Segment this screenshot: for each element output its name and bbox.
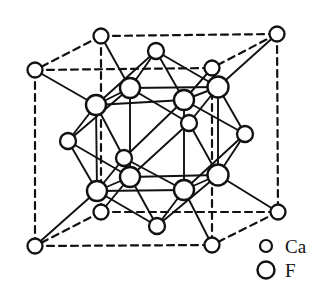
legend: Ca F <box>258 236 307 281</box>
fluorine-atom <box>174 90 194 110</box>
f-cube-edge <box>96 100 184 105</box>
calcium-atom <box>94 29 109 44</box>
crystal-structure-diagram: Ca F <box>0 0 321 302</box>
legend-f-circle-icon <box>258 262 275 279</box>
fluorine-atom <box>86 95 106 115</box>
calcium-atom <box>181 115 197 131</box>
legend-ca-label: Ca <box>285 236 307 257</box>
fluorine-atom <box>87 181 107 201</box>
ca-f-bond <box>218 34 277 87</box>
calcium-atom <box>28 239 43 254</box>
calcium-atom <box>237 126 253 142</box>
calcium-atom <box>270 27 285 42</box>
f-cube-edge <box>97 190 184 191</box>
calcium-atom <box>205 61 220 76</box>
legend-ca-circle-icon <box>260 240 272 252</box>
fluorine-atom <box>208 77 229 98</box>
cube-edge-dashed <box>35 36 101 70</box>
cube-edge-dashed <box>101 34 277 36</box>
ca-f-bond <box>130 123 189 177</box>
fluorine-atom <box>174 180 194 200</box>
f-cube-edge <box>130 175 218 177</box>
cube-edge-dashed <box>277 34 278 212</box>
f-cube-edge <box>130 87 218 88</box>
calcium-atom <box>28 63 43 78</box>
calcium-atom <box>94 205 109 220</box>
crystal-structure-figure: Ca F <box>0 0 321 302</box>
calcium-atom <box>148 43 164 59</box>
fluorine-atom <box>120 167 140 187</box>
calcium-atom <box>205 238 220 253</box>
calcium-atom <box>271 205 286 220</box>
fluorine-atom <box>208 165 229 186</box>
calcium-atom <box>149 218 165 234</box>
calcium-atom <box>60 133 76 149</box>
ca-f-bond <box>124 100 184 158</box>
f-cube-edge <box>96 105 97 191</box>
fluorine-atom <box>120 78 140 98</box>
legend-f-label: F <box>285 260 296 281</box>
calcium-atom <box>116 150 132 166</box>
cube-edge-dashed <box>35 245 212 246</box>
